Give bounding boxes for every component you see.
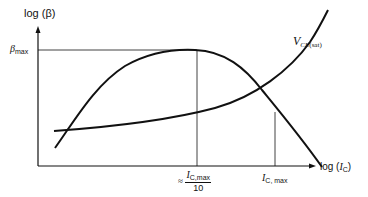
vce-sat-curve	[54, 10, 328, 131]
y-axis-label: log (β)	[24, 8, 55, 19]
vce-sat-label: VCE(sat)	[293, 35, 322, 49]
beta-max-label: βmax	[10, 44, 28, 55]
x-axis-arrow-icon	[309, 164, 316, 169]
x-axis-label: log (IC)	[320, 162, 351, 173]
beta-curve	[55, 50, 322, 167]
tick-ic-max-over-10: ≈ IC,max 10	[178, 170, 211, 193]
diagram-canvas	[0, 0, 368, 197]
y-axis-arrow-icon	[36, 26, 41, 33]
tick-ic-max: IC, max	[262, 173, 288, 184]
